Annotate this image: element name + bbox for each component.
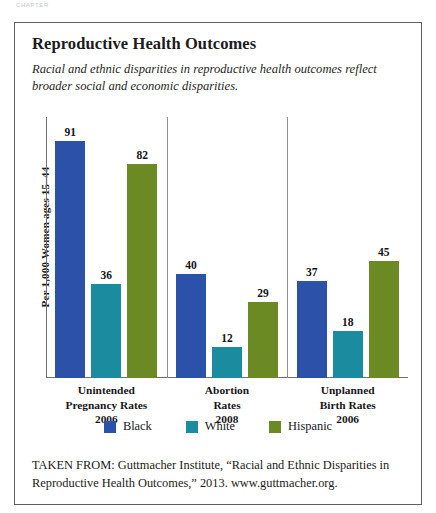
bar-white-group-1: 36: [91, 284, 121, 378]
legend-item-hispanic: Hispanic: [269, 419, 332, 434]
chart-plot-area: Per 1,000 Women ages 15–44 9136824012293…: [15, 111, 421, 411]
chart-legend: BlackWhiteHispanic: [15, 419, 421, 434]
bar-value-label: 36: [101, 269, 113, 281]
group-divider-1: [167, 117, 168, 378]
figure-title: Reproductive Health Outcomes: [32, 34, 256, 54]
category-label-line: Birth Rates: [287, 398, 408, 413]
bar-hispanic-group-2: 29: [248, 302, 278, 378]
legend-label: Black: [123, 419, 152, 434]
bar-black-group-2: 40: [176, 274, 206, 378]
bar-value-label: 45: [378, 246, 390, 258]
bar-black-group-1: 91: [55, 141, 85, 379]
category-label-line: Unplanned: [287, 383, 408, 398]
page-running-head: Chapter: [16, 2, 49, 8]
bar-value-label: 82: [137, 149, 149, 161]
category-label-line: Rates: [167, 398, 288, 413]
bar-white-group-2: 12: [212, 347, 242, 378]
bar-hispanic-group-3: 45: [369, 261, 399, 378]
category-label-line: Abortion: [167, 383, 288, 398]
legend-label: White: [205, 419, 235, 434]
bar-value-label: 29: [257, 287, 269, 299]
figure-source-caption: TAKEN FROM: Guttmacher Institute, “Racia…: [32, 457, 407, 492]
bar-black-group-3: 37: [297, 281, 327, 378]
figure-frame: Reproductive Health Outcomes Racial and …: [14, 22, 422, 505]
bar-value-label: 12: [221, 332, 233, 344]
legend-item-black: Black: [104, 419, 152, 434]
bar-hispanic-group-1: 82: [127, 164, 157, 378]
bar-value-label: 40: [185, 259, 197, 271]
bar-value-label: 37: [306, 266, 318, 278]
legend-swatch-icon: [186, 421, 198, 433]
bar-white-group-3: 18: [333, 331, 363, 378]
legend-swatch-icon: [104, 421, 116, 433]
legend-label: Hispanic: [288, 419, 332, 434]
bar-value-label: 91: [65, 126, 77, 138]
figure-inner: Reproductive Health Outcomes Racial and …: [15, 23, 421, 504]
bar-value-label: 18: [342, 316, 354, 328]
legend-swatch-icon: [269, 421, 281, 433]
legend-item-white: White: [186, 419, 235, 434]
figure-subtitle: Racial and ethnic disparities in reprodu…: [32, 61, 392, 96]
category-label-line: Unintended: [46, 383, 167, 398]
category-label-line: Pregnancy Rates: [46, 398, 167, 413]
bar-series-layer: 913682401229371845: [46, 117, 408, 378]
group-divider-2: [287, 117, 288, 378]
